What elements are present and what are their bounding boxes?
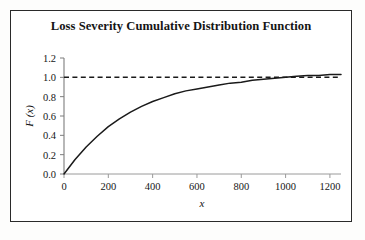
x-tick-label: 1200 (319, 181, 340, 192)
y-tick-label: 0.6 (43, 111, 56, 122)
x-tick-label: 0 (61, 181, 66, 192)
y-axis-title: F (x) (23, 105, 36, 128)
chart-page: Loss Severity Cumulative Distribution Fu… (0, 0, 365, 240)
x-tick-label: 200 (100, 181, 116, 192)
y-tick-label: 1.2 (43, 53, 56, 64)
x-axis-title: x (199, 197, 205, 209)
y-tick-label: 0.2 (43, 150, 56, 161)
cdf-curve (64, 74, 341, 174)
x-tick-label: 400 (145, 181, 161, 192)
x-tick-label: 1000 (275, 181, 296, 192)
x-axis-tick-labels: 0 200 400 600 800 1000 1200 (61, 181, 340, 192)
y-tick-label: 0.4 (43, 130, 57, 141)
y-axis-ticks (60, 58, 64, 174)
y-tick-label: 1.0 (43, 72, 56, 83)
y-tick-label: 0.8 (43, 92, 56, 103)
chart-frame-border: Loss Severity Cumulative Distribution Fu… (10, 10, 352, 222)
x-tick-label: 600 (189, 181, 205, 192)
y-axis-tick-labels: 1.2 1.0 0.8 0.6 0.4 0.2 0.0 (43, 53, 57, 180)
x-tick-label: 800 (233, 181, 249, 192)
plot-area: 1.2 1.0 0.8 0.6 0.4 0.2 0.0 0 (11, 11, 353, 223)
y-tick-label: 0.0 (43, 169, 56, 180)
x-axis-ticks (64, 174, 330, 178)
